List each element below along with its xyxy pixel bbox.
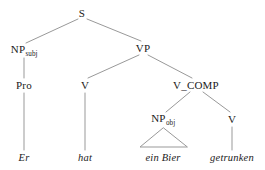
node-np-obj-label: NP bbox=[151, 112, 165, 124]
node-s: S bbox=[79, 8, 85, 19]
terminal-hat: hat bbox=[78, 153, 92, 164]
node-v-comp-label: V_COMP bbox=[173, 79, 219, 91]
node-vp: VP bbox=[136, 43, 150, 54]
edge-vp-to-v-comp bbox=[148, 55, 192, 78]
node-pro: Pro bbox=[16, 80, 32, 91]
node-v-main: V bbox=[228, 114, 236, 125]
node-np-obj: NPobj bbox=[151, 113, 175, 124]
syntax-tree-figure: S NPsubj VP Pro V V_COMP NPobj V Er hat … bbox=[0, 0, 265, 170]
node-vp-label: VP bbox=[136, 42, 150, 54]
terminal-ein-bier: ein Bier bbox=[145, 153, 180, 164]
node-v-aux-label: V bbox=[81, 79, 89, 91]
node-np-subj-label: NP bbox=[11, 43, 25, 55]
node-np-subj-subscript: subj bbox=[26, 50, 38, 58]
edge-v-comp-to-v bbox=[203, 92, 230, 112]
node-v-main-label: V bbox=[228, 113, 236, 125]
node-pro-label: Pro bbox=[16, 79, 32, 91]
tree-edges-layer bbox=[0, 0, 265, 170]
node-s-label: S bbox=[79, 7, 85, 19]
edge-v-comp-to-np-obj bbox=[166, 92, 190, 112]
node-np-subj: NPsubj bbox=[11, 44, 37, 55]
terminal-er: Er bbox=[19, 153, 30, 164]
node-np-obj-subscript: obj bbox=[166, 119, 175, 127]
edge-vp-to-v bbox=[88, 55, 139, 78]
edge-s-to-np-subj bbox=[26, 19, 78, 43]
node-v-comp: V_COMP bbox=[173, 80, 219, 91]
np-obj-triangle bbox=[140, 128, 187, 147]
node-v-aux: V bbox=[81, 80, 89, 91]
edge-s-to-vp bbox=[87, 19, 141, 41]
terminal-getrunken: getrunken bbox=[210, 153, 254, 164]
